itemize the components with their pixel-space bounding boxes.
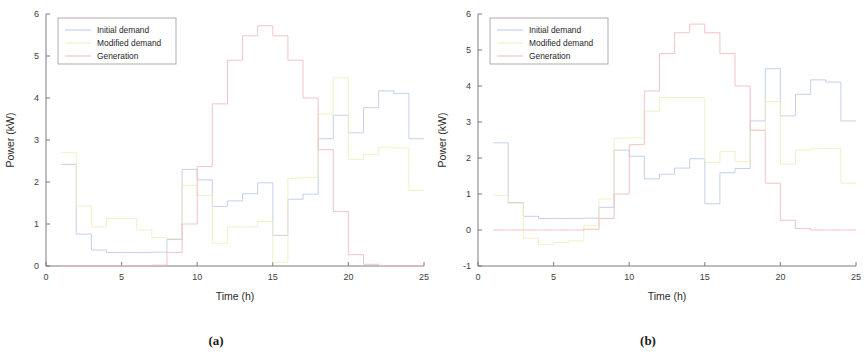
y-tick-label: 6: [466, 9, 471, 19]
chart-panel-b: -101234560510152025Time (h)Power (kW)Ini…: [432, 0, 864, 357]
y-tick-label: 1: [466, 189, 471, 199]
x-axis-title: Time (h): [648, 290, 687, 302]
y-tick-label: 4: [466, 81, 471, 91]
x-tick-label: 5: [119, 272, 124, 282]
y-tick-label: 2: [466, 153, 471, 163]
legend-label-generation: Generation: [529, 51, 571, 61]
plot-area-b: -101234560510152025Time (h)Power (kW)Ini…: [432, 0, 864, 310]
chart-svg-b: -101234560510152025Time (h)Power (kW)Ini…: [432, 0, 864, 310]
y-tick-label: 3: [34, 135, 39, 145]
y-tick-label: 1: [34, 219, 39, 229]
series-line-initial-demand: [61, 91, 424, 253]
x-tick-label: 0: [475, 272, 480, 282]
y-tick-label: 6: [34, 9, 39, 19]
y-tick-label: 3: [466, 117, 471, 127]
x-tick-label: 20: [343, 272, 353, 282]
x-axis-title: Time (h): [216, 290, 255, 302]
legend-label-modified-demand: Modified demand: [529, 38, 594, 48]
panel-caption-a: (a): [0, 333, 432, 349]
y-tick-label: -1: [463, 261, 471, 271]
x-tick-label: 0: [43, 272, 48, 282]
x-tick-label: 20: [775, 272, 785, 282]
y-axis-title: Power (kW): [4, 113, 16, 168]
series-line-modified-demand: [61, 78, 424, 262]
legend-label-initial-demand: Initial demand: [97, 25, 149, 35]
x-tick-label: 15: [700, 272, 710, 282]
y-tick-label: 0: [34, 261, 39, 271]
chart-panel-a: 01234560510152025Time (h)Power (kW)Initi…: [0, 0, 432, 357]
y-tick-label: 0: [466, 225, 471, 235]
y-tick-label: 5: [466, 45, 471, 55]
x-tick-label: 10: [192, 272, 202, 282]
figure-panel-row: 01234560510152025Time (h)Power (kW)Initi…: [0, 0, 865, 357]
legend-label-modified-demand: Modified demand: [97, 38, 162, 48]
y-axis-title: Power (kW): [436, 113, 448, 168]
x-tick-label: 10: [624, 272, 634, 282]
legend-label-generation: Generation: [97, 51, 139, 61]
chart-svg-a: 01234560510152025Time (h)Power (kW)Initi…: [0, 0, 432, 310]
y-tick-label: 2: [34, 177, 39, 187]
legend-label-initial-demand: Initial demand: [529, 25, 581, 35]
x-tick-label: 25: [419, 272, 429, 282]
y-tick-label: 4: [34, 93, 39, 103]
y-tick-label: 5: [34, 51, 39, 61]
panel-caption-b: (b): [432, 333, 864, 349]
x-tick-label: 25: [851, 272, 861, 282]
x-tick-label: 15: [268, 272, 278, 282]
x-tick-label: 5: [551, 272, 556, 282]
plot-area-a: 01234560510152025Time (h)Power (kW)Initi…: [0, 0, 432, 310]
series-line-initial-demand: [493, 69, 856, 219]
